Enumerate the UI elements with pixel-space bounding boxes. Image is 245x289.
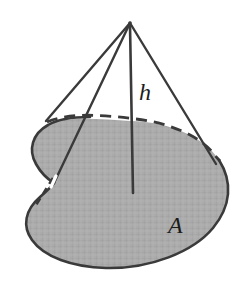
height-label: h xyxy=(139,80,151,104)
cone-diagram-svg xyxy=(0,0,245,289)
cone-base-region xyxy=(26,119,228,268)
area-label: A xyxy=(168,213,183,237)
geometry-figure: h A xyxy=(0,0,245,289)
cone-apex-point xyxy=(128,21,132,25)
